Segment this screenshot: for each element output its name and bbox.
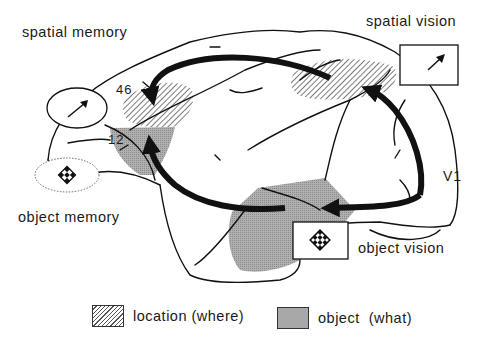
area-46-where-region xyxy=(123,83,193,128)
brain-pathways-diagram xyxy=(0,0,497,352)
legend-item-location: location (where) xyxy=(92,305,244,327)
spatial-vision-box xyxy=(400,45,458,85)
label-spatial-memory: spatial memory xyxy=(22,24,127,40)
legend-label-location: location (where) xyxy=(133,308,244,324)
dorsal-pathway-arrow xyxy=(370,90,421,195)
label-spatial-vision: spatial vision xyxy=(366,13,456,29)
legend-label-object: object (what) xyxy=(318,310,412,326)
hatched-swatch-icon xyxy=(92,305,124,327)
legend-item-object: object (what) xyxy=(277,307,412,329)
label-area-46: 46 xyxy=(116,82,132,97)
label-object-memory: object memory xyxy=(18,209,120,225)
object-vision-box xyxy=(293,222,348,259)
label-object-vision: object vision xyxy=(358,240,444,256)
label-v1: V1 xyxy=(443,168,462,184)
object-memory-oval xyxy=(35,158,99,192)
spatial-memory-oval xyxy=(47,88,107,128)
label-area-12: 12 xyxy=(108,132,124,147)
grey-swatch-icon xyxy=(277,307,309,329)
